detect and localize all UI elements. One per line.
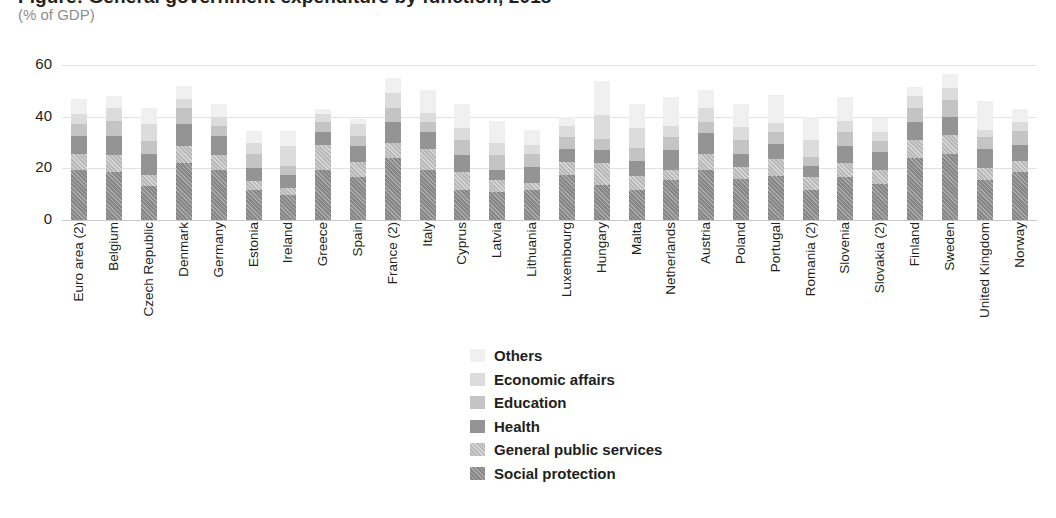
bar-slot[interactable] [594, 0, 610, 220]
x-axis-label: Finland [907, 222, 922, 266]
stacked-bar[interactable] [106, 96, 122, 220]
stacked-bar[interactable] [872, 118, 888, 220]
stacked-bar[interactable] [420, 90, 436, 220]
stacked-bar[interactable] [280, 131, 296, 220]
bar-slot[interactable] [768, 0, 784, 220]
bar-segment [733, 140, 749, 154]
bar-slot[interactable] [907, 0, 923, 220]
bar-segment [280, 188, 296, 196]
bar-slot[interactable] [837, 0, 853, 220]
stacked-bar[interactable] [977, 101, 993, 220]
stacked-bar[interactable] [837, 97, 853, 220]
stacked-bar[interactable] [768, 95, 784, 220]
stacked-bar[interactable] [385, 78, 401, 220]
bar-segment [106, 155, 122, 172]
bar-slot[interactable] [71, 0, 87, 220]
bar-slot[interactable] [141, 0, 157, 220]
bar-segment [768, 95, 784, 123]
bar-segment [385, 93, 401, 107]
bar-segment [350, 146, 366, 162]
bar-slot[interactable] [350, 0, 366, 220]
stacked-bar[interactable] [733, 104, 749, 220]
bar-segment [315, 170, 331, 220]
legend-item[interactable]: General public services [470, 438, 662, 462]
bar-segment [837, 121, 853, 133]
bar-slot[interactable] [1012, 0, 1028, 220]
bar-segment [280, 175, 296, 188]
stacked-bar[interactable] [663, 97, 679, 220]
bar-segment [246, 190, 262, 220]
stacked-bar[interactable] [454, 104, 470, 220]
stacked-bar[interactable] [524, 130, 540, 220]
bar-slot[interactable] [663, 0, 679, 220]
bar-segment [420, 149, 436, 170]
bar-segment [454, 140, 470, 156]
bar-segment [71, 136, 87, 154]
stacked-bar[interactable] [942, 74, 958, 220]
bar-slot[interactable] [176, 0, 192, 220]
bar-slot[interactable] [733, 0, 749, 220]
bar-segment [942, 74, 958, 88]
stacked-bar[interactable] [629, 104, 645, 220]
bar-slot[interactable] [803, 0, 819, 220]
stacked-bar[interactable] [315, 109, 331, 220]
bar-segment [106, 121, 122, 137]
legend-item[interactable]: Economic affairs [470, 368, 662, 392]
bar-slot[interactable] [977, 0, 993, 220]
bar-slot[interactable] [280, 0, 296, 220]
stacked-bar[interactable] [594, 81, 610, 220]
bar-slot[interactable] [559, 0, 575, 220]
bar-slot[interactable] [872, 0, 888, 220]
bar-slot[interactable] [629, 0, 645, 220]
bar-slot[interactable] [246, 0, 262, 220]
bar-segment [385, 78, 401, 94]
bar-segment [559, 117, 575, 126]
legend-item[interactable]: Health [470, 415, 662, 439]
stacked-bar[interactable] [559, 117, 575, 220]
stacked-bar[interactable] [350, 119, 366, 220]
bar-segment [211, 136, 227, 155]
bar-segment [663, 170, 679, 180]
bar-slot[interactable] [524, 0, 540, 220]
x-axis-label: Slovakia (2) [872, 222, 887, 293]
stacked-bar[interactable] [1012, 109, 1028, 220]
bar-segment [872, 132, 888, 141]
stacked-bar[interactable] [71, 99, 87, 220]
stacked-bar[interactable] [211, 104, 227, 220]
stacked-bar[interactable] [141, 108, 157, 220]
bar-slot[interactable] [211, 0, 227, 220]
legend-item[interactable]: Education [470, 391, 662, 415]
bar-segment [907, 158, 923, 220]
bar-slot[interactable] [942, 0, 958, 220]
bar-slot[interactable] [489, 0, 505, 220]
bar-slot[interactable] [385, 0, 401, 220]
bar-slot[interactable] [698, 0, 714, 220]
bar-segment [1012, 172, 1028, 220]
bar-segment [211, 104, 227, 117]
bar-segment [872, 152, 888, 170]
bar-segment [420, 113, 436, 122]
economic-affairs-swatch [470, 373, 485, 386]
bar-segment [698, 122, 714, 134]
stacked-bar[interactable] [907, 87, 923, 220]
bar-segment [420, 122, 436, 132]
bar-segment [629, 128, 645, 147]
bar-segment [698, 154, 714, 170]
bar-slot[interactable] [106, 0, 122, 220]
bar-segment [698, 108, 714, 122]
stacked-bar[interactable] [176, 86, 192, 220]
legend-item[interactable]: Others [470, 344, 662, 368]
stacked-bar[interactable] [246, 131, 262, 220]
bar-segment [141, 108, 157, 125]
bar-slot[interactable] [454, 0, 470, 220]
bar-slot[interactable] [420, 0, 436, 220]
bar-segment [280, 131, 296, 147]
stacked-bar[interactable] [489, 121, 505, 220]
stacked-bar[interactable] [803, 117, 819, 220]
bar-slot[interactable] [315, 0, 331, 220]
bar-segment [594, 150, 610, 163]
stacked-bar[interactable] [698, 90, 714, 220]
bar-segment [454, 128, 470, 140]
bar-segment [71, 114, 87, 124]
legend-item[interactable]: Social protection [470, 462, 662, 486]
